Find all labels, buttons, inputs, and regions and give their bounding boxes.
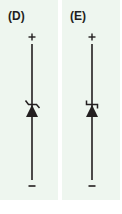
panel-d: (D) <box>0 0 58 200</box>
schottky-diode-icon <box>62 0 120 200</box>
diode-triangle <box>26 105 38 117</box>
zener-diode-icon <box>0 0 58 200</box>
diode-triangle <box>86 105 98 117</box>
panel-e: (E) <box>62 0 120 200</box>
plus-icon <box>29 34 36 41</box>
plus-icon <box>89 34 96 41</box>
